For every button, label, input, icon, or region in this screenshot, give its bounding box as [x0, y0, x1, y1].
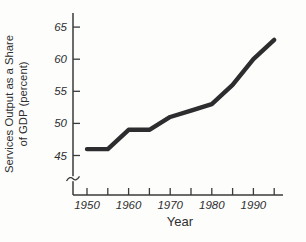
x-axis-title: Year [167, 214, 194, 229]
y-axis-title-line: Services Output as a Share [3, 35, 15, 173]
x-tick-label: 1990 [241, 199, 267, 211]
x-tick-label: 1950 [74, 199, 100, 211]
y-tick-label: 50 [54, 117, 67, 129]
y-tick-label: 65 [54, 21, 67, 33]
y-tick-label: 55 [54, 85, 67, 97]
data-line-services-share [87, 40, 274, 149]
x-tick-label: 1980 [199, 199, 225, 211]
x-tick-label: 1960 [116, 199, 142, 211]
line-chart-canvas: 455055606519501960197019801990YearServic… [0, 0, 306, 242]
x-tick-label: 1970 [157, 199, 183, 211]
y-tick-label: 60 [54, 53, 67, 65]
y-tick-label: 45 [54, 150, 67, 162]
y-axis-title-line: of GDP (percent) [17, 61, 29, 146]
services-gdp-line-chart-figure: 455055606519501960197019801990YearServic… [0, 0, 306, 242]
